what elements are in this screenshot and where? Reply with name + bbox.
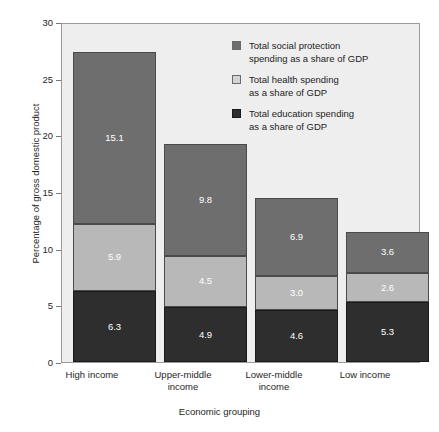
y-tick-label: 30 (42, 16, 53, 30)
bar-stack-low-income[interactable]: 3.6 2.6 5.3 (346, 232, 429, 362)
legend-entry-social-protection[interactable]: Total social protection spending as a sh… (232, 40, 412, 65)
bar-segment-health[interactable]: 4.5 (164, 256, 247, 307)
bar-segment-social-protection[interactable]: 9.8 (164, 144, 247, 255)
x-axis-title: Economic grouping (0, 406, 439, 417)
bar-segment-social-protection[interactable]: 15.1 (73, 52, 156, 223)
chart-legend: Total social protection spending as a sh… (232, 40, 412, 142)
y-tick-label: 25 (42, 73, 53, 87)
y-tick-label: 0 (48, 356, 53, 370)
bar-segment-social-protection[interactable]: 3.6 (346, 232, 429, 273)
legend-entry-health[interactable]: Total health spending as a share of GDP (232, 74, 412, 99)
stacked-bar-chart: Percentage of gross domestic product 30 … (0, 0, 439, 432)
bar-value-label: 6.9 (290, 232, 303, 242)
bar-segment-education[interactable]: 4.9 (164, 307, 247, 363)
bar-segment-education[interactable]: 5.3 (346, 302, 429, 362)
bar-value-label: 4.9 (199, 330, 212, 340)
y-axis-title: Percentage of gross domestic product (30, 64, 41, 304)
bar-segment-social-protection[interactable]: 6.9 (255, 198, 338, 276)
y-tick-25: 25 (0, 80, 61, 81)
bar-value-label: 3.6 (381, 247, 394, 257)
bar-segment-education[interactable]: 4.6 (255, 310, 338, 362)
y-tick-15: 15 (0, 193, 61, 194)
legend-label: Total health spending as a share of GDP (249, 74, 412, 99)
y-tick-20: 20 (0, 136, 61, 137)
y-tick-label: 15 (42, 186, 53, 200)
y-tick-10: 10 (0, 250, 61, 251)
bar-value-label: 3.0 (290, 288, 303, 298)
y-tick-5: 5 (0, 306, 61, 307)
bar-stack-high-income[interactable]: 15.1 5.9 6.3 (73, 53, 156, 362)
bar-segment-health[interactable]: 5.9 (73, 224, 156, 291)
y-tick-30: 30 (0, 23, 61, 24)
legend-label: Total social protection spending as a sh… (249, 40, 412, 65)
x-label-line2: income (214, 381, 334, 393)
legend-swatch-icon (232, 41, 241, 50)
bar-segment-health[interactable]: 3.0 (255, 276, 338, 310)
bar-value-label: 4.5 (199, 276, 212, 286)
bar-value-label: 15.1 (105, 133, 124, 143)
bar-value-label: 5.3 (381, 327, 394, 337)
legend-swatch-icon (232, 109, 241, 118)
x-label-low-income: Low income (305, 369, 425, 381)
bar-stack-lower-middle-income[interactable]: 6.9 3.0 4.6 (255, 198, 338, 362)
plot-area: 15.1 5.9 6.3 9.8 4.5 4.9 6.9 (61, 23, 420, 363)
y-tick-label: 10 (42, 243, 53, 257)
bar-value-label: 9.8 (199, 195, 212, 205)
y-tick-0: 0 (0, 363, 61, 364)
y-tick-mark (56, 363, 61, 364)
bar-segment-education[interactable]: 6.3 (73, 291, 156, 362)
bar-stack-upper-middle-income[interactable]: 9.8 4.5 4.9 (164, 144, 247, 362)
bar-value-label: 6.3 (108, 322, 121, 332)
y-tick-label: 20 (42, 129, 53, 143)
y-tick-label: 5 (48, 299, 53, 313)
bar-value-label: 4.6 (290, 331, 303, 341)
legend-label: Total education spending as a share of G… (249, 108, 412, 133)
bar-value-label: 2.6 (381, 283, 394, 293)
bar-segment-health[interactable]: 2.6 (346, 273, 429, 303)
legend-swatch-icon (232, 75, 241, 84)
bar-value-label: 5.9 (108, 252, 121, 262)
x-label-line1: Low income (305, 369, 425, 381)
legend-entry-education[interactable]: Total education spending as a share of G… (232, 108, 412, 133)
